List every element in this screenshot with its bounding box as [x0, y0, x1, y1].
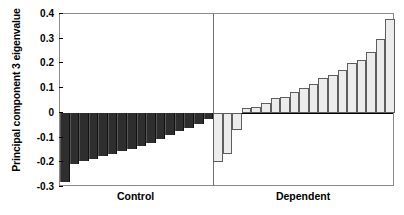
bar: [184, 113, 194, 128]
group-label-dependent: Dependent: [276, 190, 330, 202]
y-axis-tick-labels: 0.40.30.20.10-0.1-0.2-0.3: [22, 0, 54, 215]
bar: [385, 19, 395, 113]
bar: [251, 107, 261, 113]
y-tick-label: -0.3: [26, 181, 54, 192]
bar: [271, 98, 281, 113]
group-label-control: Control: [117, 190, 154, 202]
bar: [165, 113, 175, 135]
bar: [309, 84, 319, 112]
bar: [117, 113, 127, 151]
bar: [70, 113, 80, 164]
y-tick-label: 0.1: [26, 82, 54, 93]
bar: [347, 63, 357, 112]
y-tick-label: 0.3: [26, 32, 54, 43]
bar: [290, 92, 300, 113]
bar: [60, 113, 70, 182]
y-tick-mark: [59, 38, 63, 39]
bar: [79, 113, 89, 161]
bar: [328, 75, 338, 113]
bar: [137, 113, 147, 146]
bar: [318, 78, 328, 113]
plot-area: [59, 13, 394, 186]
y-tick-mark: [59, 87, 63, 88]
bar: [98, 113, 108, 156]
y-tick-label: 0.2: [26, 57, 54, 68]
bar: [108, 113, 118, 154]
bar: [146, 113, 156, 143]
bar: [175, 113, 185, 132]
bar: [204, 113, 214, 119]
y-tick-label: 0.4: [26, 8, 54, 19]
y-tick-label: -0.1: [26, 131, 54, 142]
bar: [156, 113, 166, 139]
y-tick-mark: [59, 62, 63, 63]
y-tick-mark: [59, 186, 63, 187]
bar: [299, 88, 309, 113]
bar: [194, 113, 204, 124]
bar: [89, 113, 99, 159]
bar: [338, 70, 348, 113]
bar: [366, 52, 376, 113]
bar: [376, 39, 386, 113]
bar: [127, 113, 137, 149]
y-tick-label: 0: [26, 106, 54, 117]
y-tick-mark: [59, 13, 63, 14]
bar: [280, 97, 290, 113]
y-axis-title: Principal component 3 eigenvalue: [10, 0, 22, 180]
y-tick-mark: [59, 112, 63, 113]
chart-figure: Principal component 3 eigenvalue 0.40.30…: [0, 0, 404, 215]
y-tick-mark: [59, 161, 63, 162]
bar: [223, 113, 233, 154]
bar: [242, 108, 252, 113]
bar: [232, 113, 242, 130]
bar: [261, 103, 271, 113]
y-tick-label: -0.2: [26, 156, 54, 167]
y-tick-mark: [59, 137, 63, 138]
bar: [213, 113, 223, 162]
bar: [357, 60, 367, 113]
